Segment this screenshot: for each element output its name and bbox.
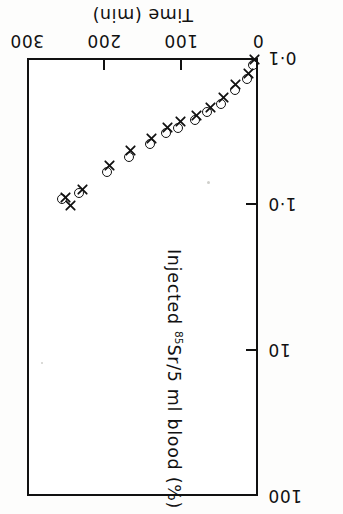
scan-speck bbox=[41, 362, 43, 364]
y-ticklabel-100: 100 bbox=[268, 486, 302, 506]
data-point-cross bbox=[162, 122, 173, 133]
data-point-cross bbox=[146, 133, 157, 144]
data-point-cross bbox=[65, 200, 76, 211]
data-point-cross bbox=[77, 184, 88, 195]
data-point-cross bbox=[125, 145, 136, 156]
y-axis-title-wrapper: Injected 85Sr/5 ml blood (%) bbox=[164, 229, 194, 514]
data-point-cross bbox=[175, 116, 186, 127]
y-ticklabel-10: 10 bbox=[268, 340, 291, 360]
y-tick-1·0 bbox=[246, 203, 258, 205]
x-tick-100 bbox=[180, 59, 182, 70]
data-point-cross bbox=[230, 79, 241, 90]
x-tick-200 bbox=[103, 59, 105, 70]
y-tick-10 bbox=[246, 349, 258, 351]
data-point-cross bbox=[205, 102, 216, 113]
y-ticklabel-1·0: 1·0 bbox=[268, 194, 297, 214]
x-ticklabel-200: 200 bbox=[87, 31, 121, 51]
figure-canvas: 0100200300 0·11·010100 Time (min) Inject… bbox=[0, 0, 343, 514]
x-ticklabel-0: 0 bbox=[252, 31, 263, 51]
y-axis-title: Injected 85Sr/5 ml blood (%) bbox=[159, 229, 194, 514]
y-ticklabel-0·1: 0·1 bbox=[268, 48, 297, 68]
x-ticklabel-100: 100 bbox=[164, 31, 198, 51]
x-axis-title: Time (min) bbox=[92, 5, 193, 25]
data-point-cross bbox=[191, 110, 202, 121]
data-point-cross bbox=[104, 160, 115, 171]
data-point-cross bbox=[243, 68, 254, 79]
data-point-cross bbox=[249, 54, 260, 65]
data-point-cross bbox=[218, 92, 229, 103]
scan-speck bbox=[207, 181, 210, 184]
plot-frame bbox=[27, 58, 258, 496]
x-ticklabel-300: 300 bbox=[10, 31, 44, 51]
rotated-figure-content: 0100200300 0·11·010100 Time (min) Inject… bbox=[0, 0, 343, 514]
